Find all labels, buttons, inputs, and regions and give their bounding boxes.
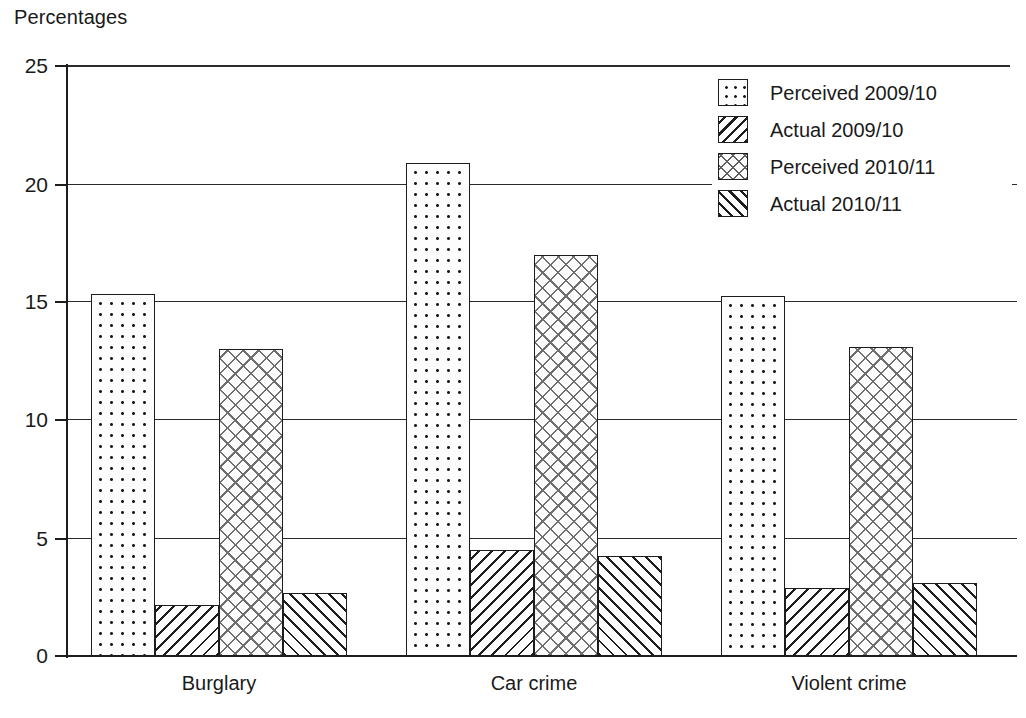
bar-violent-crime-perceived-2009-10 — [721, 296, 785, 656]
y-axis-title: Percentages — [14, 6, 127, 28]
legend-item-actual-2009-10: Actual 2009/10 — [712, 111, 1012, 148]
bar-burglary-perceived-2009-10 — [91, 294, 155, 656]
y-tick-label-25: 25 — [0, 55, 48, 76]
y-tick-label-5: 5 — [0, 528, 48, 549]
x-category-label-burglary: Burglary — [119, 672, 319, 694]
legend-item-actual-2010-11: Actual 2010/11 — [712, 185, 1012, 222]
bar-car-crime-perceived-2010-11 — [534, 255, 598, 656]
bar-chart: Percentages 25 20 15 10 5 0 Burglary Car… — [0, 0, 1026, 718]
back-hatch-swatch-icon — [718, 116, 748, 143]
bar-car-crime-actual-2009-10 — [470, 550, 534, 656]
y-axis-line — [66, 64, 68, 658]
bar-burglary-actual-2010-11 — [283, 593, 347, 656]
y-tick-label-20: 20 — [0, 174, 48, 195]
bar-car-crime-actual-2010-11 — [598, 556, 662, 656]
y-tick-5 — [55, 538, 68, 540]
y-tick-25 — [55, 65, 68, 67]
y-tick-label-15: 15 — [0, 291, 48, 312]
bar-violent-crime-perceived-2010-11 — [849, 347, 913, 656]
legend-item-perceived-2009-10: Perceived 2009/10 — [712, 74, 1012, 111]
bar-burglary-actual-2009-10 — [155, 605, 219, 656]
y-tick-label-0: 0 — [0, 645, 48, 666]
bar-car-crime-perceived-2009-10 — [406, 163, 470, 656]
legend-item-label: Perceived 2010/11 — [770, 156, 935, 178]
y-tick-15 — [55, 301, 68, 303]
y-tick-20 — [55, 184, 68, 186]
y-tick-0 — [55, 655, 68, 657]
x-category-label-car-crime: Car crime — [434, 672, 634, 694]
legend-item-label: Actual 2009/10 — [770, 119, 903, 141]
legend: Perceived 2009/10 Actual 2009/10 Perceiv… — [712, 68, 1012, 228]
gridline-20-left — [66, 184, 712, 185]
legend-item-perceived-2010-11: Perceived 2010/11 — [712, 148, 1012, 185]
y-tick-label-10: 10 — [0, 409, 48, 430]
x-category-label-violent-crime: Violent crime — [749, 672, 949, 694]
bar-burglary-perceived-2010-11 — [219, 349, 283, 656]
legend-item-label: Perceived 2009/10 — [770, 82, 937, 104]
forward-hatch-swatch-icon — [718, 190, 748, 217]
legend-item-label: Actual 2010/11 — [770, 193, 902, 215]
bar-violent-crime-actual-2010-11 — [913, 583, 977, 656]
gridline-25-left — [66, 65, 1010, 67]
cross-hatch-swatch-icon — [718, 153, 748, 180]
bar-violent-crime-actual-2009-10 — [785, 588, 849, 656]
y-tick-10 — [55, 419, 68, 421]
dotted-swatch-icon — [718, 79, 748, 106]
